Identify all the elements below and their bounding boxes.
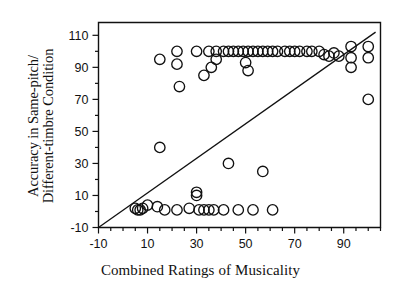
plot-area: -101030507090-101030507090110 [0,0,401,295]
data-point [346,62,356,72]
data-point [363,94,373,104]
x-axis-label: Combined Ratings of Musicality [0,262,401,279]
data-point [155,142,165,152]
x-tick-label: -10 [89,237,107,251]
data-point [258,166,268,176]
data-points [130,41,373,215]
scatter-plot-svg: -101030507090-101030507090110 [0,0,401,295]
y-tick-label: 90 [75,61,89,75]
y-tick-label: 10 [75,189,89,203]
y-tick-label: 30 [75,157,89,171]
data-point [233,205,243,215]
data-point [363,41,373,51]
data-point [199,70,209,80]
data-point [346,53,356,63]
chart-figure: Accuracy in Same-pitch/ Different-timbre… [0,0,401,295]
x-tick-label: 30 [190,237,204,251]
data-point [267,205,277,215]
data-point [184,203,194,213]
data-point [172,205,182,215]
data-point [155,54,165,64]
data-point [191,46,201,56]
data-point [223,158,233,168]
x-tick-label: 70 [288,237,302,251]
y-tick-label: 70 [75,93,89,107]
plot-frame [99,23,381,228]
x-tick-label: 90 [337,237,351,251]
y-tick-label: -10 [70,221,88,235]
y-tick-label: 50 [75,125,89,139]
regression-line-segment [99,32,376,227]
y-tick-label: 110 [69,29,89,43]
data-point [174,81,184,91]
axis-frame [99,23,381,228]
regression-line [99,32,376,227]
x-tick-label: 50 [239,237,253,251]
data-point [172,46,182,56]
x-tick-label: 10 [141,237,155,251]
data-point [218,205,228,215]
data-point [248,205,258,215]
data-point [172,59,182,69]
data-point [363,53,373,63]
